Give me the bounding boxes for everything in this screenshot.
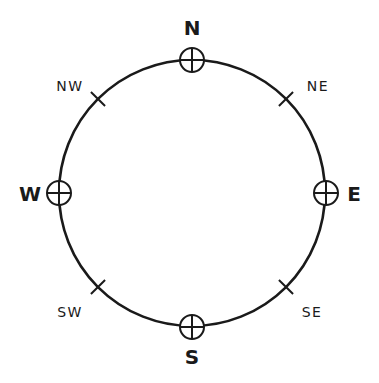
crosshair-circle-icon xyxy=(180,48,204,72)
intercardinal-se: SE xyxy=(279,280,322,320)
cardinal-e: E xyxy=(314,181,361,206)
cardinal-n: N xyxy=(180,16,204,72)
intercardinal-sw: SW xyxy=(57,280,105,320)
compass-diagram: NESW NESESWNW xyxy=(0,0,379,383)
label-ne: NE xyxy=(307,78,329,94)
crosshair-circle-icon xyxy=(314,181,338,205)
label-e: E xyxy=(347,182,361,206)
cardinal-s: S xyxy=(180,315,204,369)
label-s: S xyxy=(185,345,199,369)
crosshair-circle-icon xyxy=(47,181,71,205)
label-nw: NW xyxy=(56,78,83,94)
cardinal-w: W xyxy=(19,181,71,206)
label-se: SE xyxy=(302,304,323,320)
label-w: W xyxy=(19,182,41,206)
intercardinal-ne: NE xyxy=(279,78,329,106)
label-n: N xyxy=(184,16,201,40)
intercardinal-nw: NW xyxy=(56,78,105,106)
crosshair-circle-icon xyxy=(180,315,204,339)
label-sw: SW xyxy=(57,304,83,320)
